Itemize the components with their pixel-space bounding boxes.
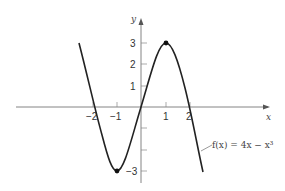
x-axis-label: x bbox=[266, 112, 271, 122]
y-tick-label: −3 bbox=[126, 166, 138, 177]
local-maximum-point bbox=[164, 41, 169, 46]
x-tick-label: −1 bbox=[110, 111, 122, 122]
x-tick-label: 1 bbox=[163, 111, 169, 122]
y-tick-label: 1 bbox=[130, 81, 136, 92]
function-graph: −2 −1 1 2 3 2 1 −3 y x f(x) = 4x − x³ bbox=[0, 0, 285, 191]
y-tick-label: 2 bbox=[130, 59, 136, 70]
y-axis-arrow-icon bbox=[139, 18, 144, 25]
local-minimum-point bbox=[115, 169, 120, 174]
x-axis-arrow-icon bbox=[263, 105, 270, 110]
y-axis-label: y bbox=[130, 14, 137, 24]
label-leader-line bbox=[201, 145, 212, 151]
function-label: f(x) = 4x − x³ bbox=[212, 140, 274, 150]
y-tick-label: 3 bbox=[130, 38, 136, 49]
